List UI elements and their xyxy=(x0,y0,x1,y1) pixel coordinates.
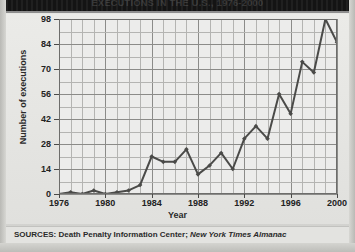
x-axis-tick-label: 1984 xyxy=(132,199,172,208)
y-axis-tick-mark xyxy=(54,94,59,95)
x-axis-tick-mark xyxy=(244,194,245,198)
y-axis-tick-mark xyxy=(54,144,59,145)
series-polyline xyxy=(59,19,337,194)
plot-area xyxy=(59,19,337,194)
source-note: SOURCES: Death Penalty Information Cente… xyxy=(14,230,287,239)
y-axis-tick-mark xyxy=(54,119,59,120)
grid-line-vertical xyxy=(337,19,338,194)
source-publication: New York Times Almanac xyxy=(190,230,287,239)
page-edge-left xyxy=(0,0,6,252)
y-axis-tick-label: 70 xyxy=(11,65,51,74)
x-axis-tick-mark xyxy=(291,194,292,198)
y-axis-tick-mark xyxy=(54,44,59,45)
x-axis-tick-mark xyxy=(337,194,338,198)
source-strip: SOURCES: Death Penalty Information Cente… xyxy=(6,226,349,244)
x-axis-tick-label: 1996 xyxy=(271,199,311,208)
y-axis-tick-mark xyxy=(54,169,59,170)
chart-title-bar: EXECUTIONS IN THE U.S., 1976-2000 xyxy=(6,0,349,11)
y-axis-tick-label: 0 xyxy=(11,190,51,199)
y-axis-tick-label: 98 xyxy=(11,15,51,24)
y-axis-tick-label: 84 xyxy=(11,40,51,49)
page-edge-bottom xyxy=(0,243,355,252)
x-axis-label: Year xyxy=(6,210,349,220)
x-axis-tick-label: 1992 xyxy=(224,199,264,208)
x-axis-tick-mark xyxy=(198,194,199,198)
data-point-marker xyxy=(91,188,96,193)
y-axis-tick-label: 42 xyxy=(11,115,51,124)
y-axis-tick-mark xyxy=(54,19,59,20)
chart-panel: Number of executions Year 01428425670849… xyxy=(6,14,349,224)
x-axis-tick-mark xyxy=(105,194,106,198)
series-line-executions xyxy=(59,19,337,194)
x-axis-tick-mark xyxy=(152,194,153,198)
figure-container: EXECUTIONS IN THE U.S., 1976-2000 Number… xyxy=(0,0,355,252)
x-axis-tick-label: 1980 xyxy=(85,199,125,208)
x-axis-tick-label: 1976 xyxy=(39,199,79,208)
y-axis-tick-label: 56 xyxy=(11,90,51,99)
y-axis-tick-label: 14 xyxy=(11,165,51,174)
scan-noise-overlay xyxy=(6,0,349,11)
y-axis-tick-label: 28 xyxy=(11,140,51,149)
x-axis-tick-mark xyxy=(59,194,60,198)
y-axis-tick-mark xyxy=(54,69,59,70)
page-edge-right xyxy=(349,0,355,252)
x-axis-tick-label: 1988 xyxy=(178,199,218,208)
title-divider xyxy=(6,11,349,13)
